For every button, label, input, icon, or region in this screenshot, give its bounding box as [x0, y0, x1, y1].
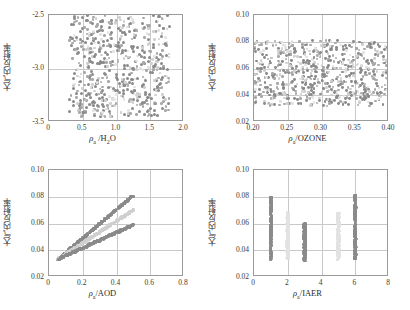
scatter-point: [382, 58, 385, 61]
scatter-point: [357, 90, 360, 93]
scatter-point: [349, 76, 352, 79]
scatter-point: [337, 243, 340, 246]
scatter-point: [304, 231, 307, 234]
scatter-point: [59, 257, 62, 260]
scatter-point: [86, 75, 89, 78]
scatter-point: [386, 49, 388, 52]
scatter-point: [303, 231, 306, 234]
scatter-point: [304, 233, 307, 236]
scatter-point: [143, 56, 146, 59]
scatter-point: [165, 54, 168, 57]
scatter-point: [69, 252, 72, 255]
scatter-point: [89, 21, 92, 24]
scatter-point: [262, 49, 265, 52]
scatter-point: [304, 240, 307, 243]
scatter-point: [254, 96, 257, 99]
scatter-point: [104, 237, 107, 240]
scatter-point: [72, 244, 75, 247]
scatter-point: [141, 84, 144, 87]
scatter-point: [101, 228, 104, 231]
scatter-point: [269, 234, 272, 237]
scatter-point: [64, 252, 67, 255]
scatter-point: [109, 102, 112, 105]
scatter-point: [338, 237, 341, 240]
scatter-point: [99, 239, 102, 242]
scatter-point: [84, 235, 87, 238]
scatter-point: [270, 238, 273, 241]
scatter-point: [117, 206, 120, 209]
scatter-point: [277, 49, 280, 52]
scatter-point: [270, 230, 273, 233]
scatter-point: [338, 220, 341, 223]
scatter-point: [337, 89, 340, 92]
scatter-point: [297, 72, 300, 75]
scatter-point: [351, 60, 354, 63]
scatter-point: [127, 225, 130, 228]
scatter-point: [109, 61, 112, 64]
scatter-point: [109, 115, 112, 118]
scatter-point: [103, 57, 106, 60]
scatter-point: [95, 233, 98, 236]
scatter-point: [270, 234, 273, 237]
scatter-point: [269, 207, 272, 210]
scatter-point: [95, 93, 98, 96]
scatter-point: [316, 50, 319, 53]
scatter-point: [283, 97, 286, 100]
scatter-point: [119, 230, 122, 233]
scatter-point: [270, 258, 273, 261]
scatter-point: [303, 252, 306, 255]
scatter-point: [253, 73, 256, 76]
scatter-point: [68, 98, 71, 101]
scatter-point: [109, 213, 112, 216]
scatter-point: [105, 235, 108, 238]
scatter-point: [131, 107, 134, 110]
scatter-point: [352, 74, 355, 77]
scatter-point: [138, 95, 141, 98]
scatter-point: [304, 64, 307, 67]
scatter-point: [108, 43, 111, 46]
scatter-point: [154, 102, 157, 105]
scatter-point: [289, 63, 292, 66]
scatter-point: [92, 235, 95, 238]
scatter-point: [270, 213, 273, 216]
scatter-point: [85, 241, 88, 244]
scatter-point: [90, 230, 93, 233]
scatter-point: [105, 236, 108, 239]
scatter-point: [326, 105, 329, 108]
scatter-point: [306, 97, 309, 100]
scatter-point: [361, 54, 364, 57]
x-tick-label: 0.6: [132, 278, 166, 287]
scatter-point: [257, 77, 260, 80]
scatter-point: [264, 81, 267, 84]
scatter-point: [74, 48, 77, 51]
scatter-point: [304, 245, 307, 248]
scatter-point: [295, 71, 298, 74]
scatter-point: [383, 48, 386, 51]
scatter-point: [294, 85, 297, 88]
scatter-point: [94, 227, 97, 230]
scatter-point: [120, 35, 123, 38]
scatter-point: [84, 234, 87, 237]
scatter-point: [270, 231, 273, 234]
scatter-point: [270, 232, 273, 235]
scatter-point: [257, 80, 260, 83]
scatter-point: [106, 235, 109, 238]
scatter-point: [270, 232, 273, 235]
scatter-point: [109, 224, 112, 227]
scatter-point: [331, 99, 334, 102]
scatter-point: [117, 206, 120, 209]
scatter-point: [330, 80, 333, 83]
scatter-point: [303, 240, 306, 243]
scatter-point: [77, 109, 80, 112]
x-label-rest: /OZONE: [295, 133, 326, 143]
scatter-point: [345, 89, 348, 92]
scatter-point: [370, 102, 373, 105]
scatter-point: [123, 202, 126, 205]
scatter-point: [303, 225, 306, 228]
scatter-point: [127, 84, 130, 87]
scatter-point: [269, 62, 272, 65]
scatter-point: [309, 97, 312, 100]
scatter-point: [91, 73, 94, 76]
scatter-point: [122, 202, 125, 205]
scatter-point: [68, 252, 71, 255]
